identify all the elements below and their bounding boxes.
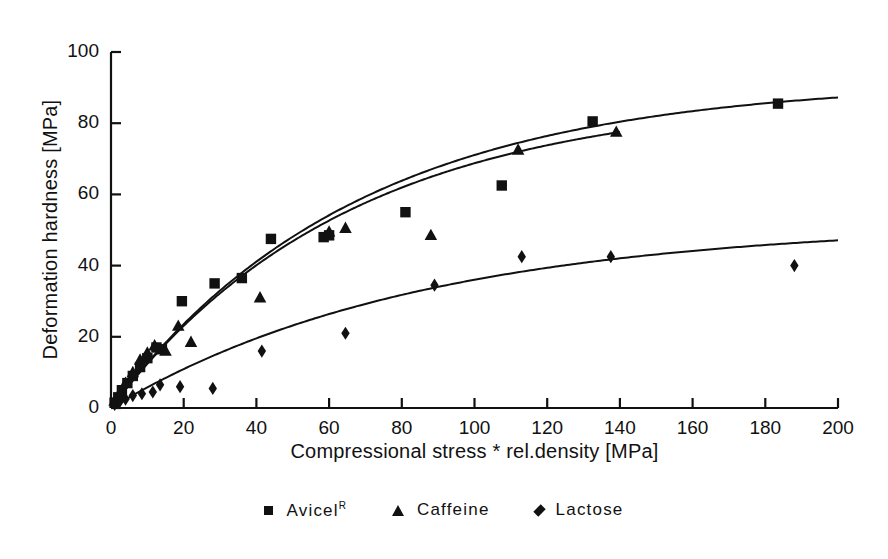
y-tick-label: 80 <box>39 111 99 133</box>
data-point-square <box>497 180 507 190</box>
y-tick-label: 100 <box>39 40 99 62</box>
data-point-diamond <box>149 385 157 398</box>
x-tick-label: 200 <box>808 417 868 439</box>
square-marker-icon <box>264 506 273 515</box>
x-tick-label: 180 <box>735 417 795 439</box>
legend-item-lactose: Lactose <box>536 500 624 520</box>
data-point-diamond <box>430 279 438 292</box>
x-tick-label: 40 <box>226 417 286 439</box>
x-tick-label: 120 <box>517 417 577 439</box>
data-point-diamond <box>209 382 217 395</box>
data-point-triangle <box>185 336 198 347</box>
x-tick-label: 100 <box>445 417 505 439</box>
y-axis-label: Deformation hardness [MPa] <box>39 50 62 410</box>
data-point-square <box>209 278 219 288</box>
data-point-square <box>773 98 783 108</box>
legend-label-avicel: AvicelR <box>286 500 345 521</box>
data-point-diamond <box>176 380 184 393</box>
x-tick-label: 0 <box>81 417 141 439</box>
data-point-square <box>266 234 276 244</box>
data-point-diamond <box>129 389 137 402</box>
x-tick-label: 140 <box>590 417 650 439</box>
legend-label-caffeine: Caffeine <box>417 500 490 520</box>
legend-item-caffeine: Caffeine <box>392 500 490 520</box>
x-tick-label: 60 <box>299 417 359 439</box>
y-tick-label: 20 <box>39 325 99 347</box>
data-point-diamond <box>258 344 266 357</box>
legend-item-avicel: AvicelR <box>264 500 345 521</box>
data-point-square <box>587 116 597 126</box>
plot-area <box>0 0 888 559</box>
x-axis-label: Compressional stress * rel.density [MPa] <box>111 440 838 463</box>
x-tick-label: 160 <box>663 417 723 439</box>
diamond-marker-icon <box>533 504 545 516</box>
data-point-triangle <box>425 229 438 240</box>
data-point-square <box>400 207 410 217</box>
chart-legend: AvicelR Caffeine Lactose <box>0 500 888 521</box>
figure-canvas: Deformation hardness [MPa] Compressional… <box>0 0 888 559</box>
fit-curve-avicel <box>111 97 838 408</box>
data-point-square <box>177 296 187 306</box>
data-point-diamond <box>790 259 798 272</box>
y-tick-label: 40 <box>39 254 99 276</box>
y-tick-label: 60 <box>39 182 99 204</box>
x-tick-label: 20 <box>154 417 214 439</box>
data-point-diamond <box>607 250 615 263</box>
x-tick-label: 80 <box>372 417 432 439</box>
fit-curve-lactose <box>111 240 838 408</box>
triangle-marker-icon <box>392 505 404 516</box>
data-point-square <box>237 273 247 283</box>
y-tick-label: 0 <box>39 396 99 418</box>
data-point-triangle <box>254 291 267 302</box>
legend-label-lactose: Lactose <box>556 500 624 520</box>
data-point-triangle <box>610 126 623 137</box>
data-point-diamond <box>341 327 349 340</box>
data-point-diamond <box>518 250 526 263</box>
data-point-triangle <box>339 222 352 233</box>
